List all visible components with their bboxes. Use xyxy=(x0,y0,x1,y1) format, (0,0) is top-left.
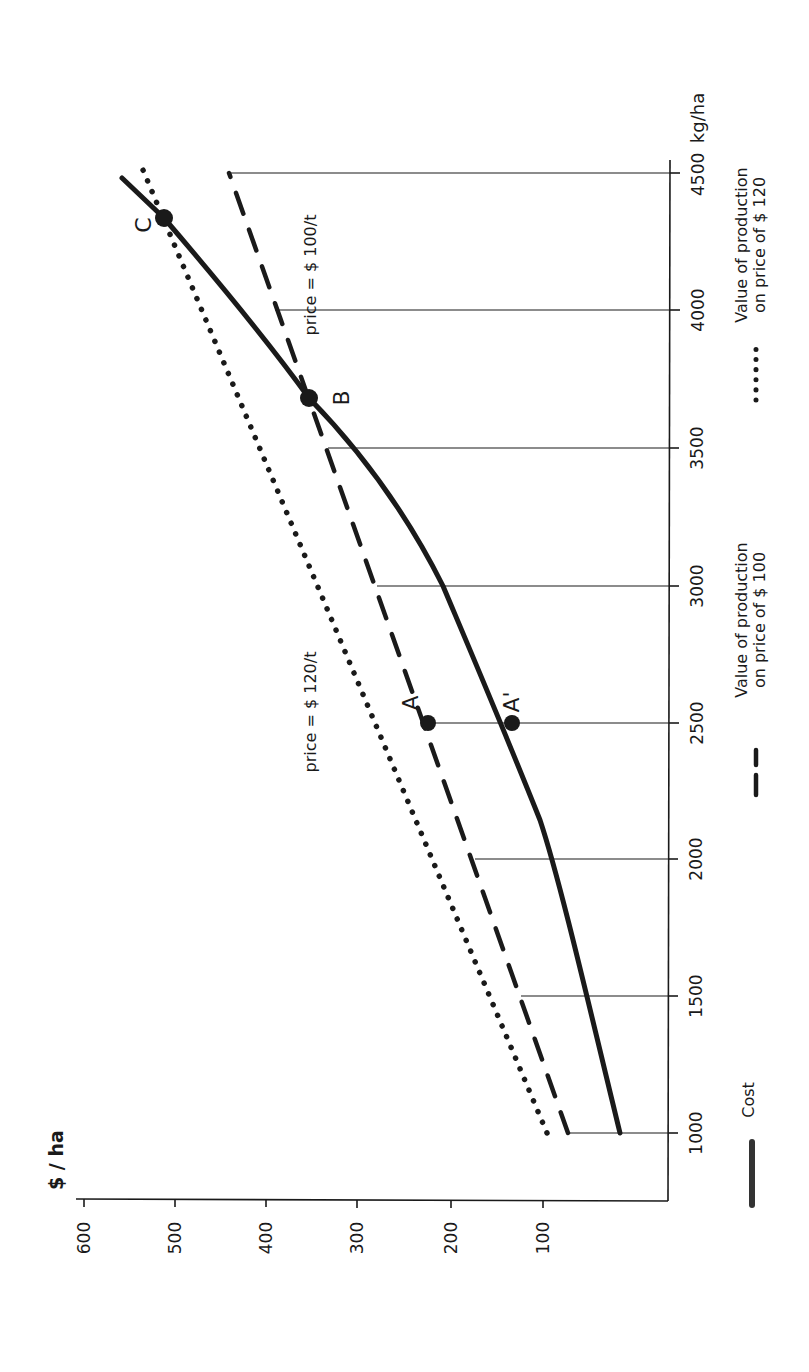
svg-text:300: 300 xyxy=(347,1222,367,1254)
point-b xyxy=(300,389,318,407)
legend-label-value-120-line2: on price of $ 120 xyxy=(750,177,769,313)
y-axis-line xyxy=(76,1199,668,1201)
series-cost xyxy=(122,178,620,1133)
svg-text:600: 600 xyxy=(74,1222,94,1254)
axes xyxy=(76,160,680,1208)
y-axis-title: $ / ha xyxy=(45,1130,67,1190)
point-b-label: B xyxy=(329,390,354,405)
svg-text:100: 100 xyxy=(533,1222,553,1254)
point-c-label: C xyxy=(131,217,156,232)
points xyxy=(155,209,520,731)
svg-text:200: 200 xyxy=(441,1222,461,1254)
series-value-100 xyxy=(229,173,568,1133)
svg-text:400: 400 xyxy=(256,1222,276,1254)
y-tick-labels: 600 500 400 300 200 100 xyxy=(74,1222,553,1254)
legend-label-value-100-line1: Value of production xyxy=(732,542,751,697)
svg-text:3500: 3500 xyxy=(687,426,707,469)
svg-text:3000: 3000 xyxy=(687,564,707,607)
point-a-label: A xyxy=(398,695,423,710)
svg-text:2500: 2500 xyxy=(687,701,707,744)
annotation-price-100: price = $ 100/t xyxy=(301,215,320,336)
svg-text:4500: 4500 xyxy=(688,153,708,196)
legend-label-value-120-line1: Value of production xyxy=(732,167,751,322)
svg-text:4000: 4000 xyxy=(688,288,708,331)
legend-label-value-100-line2: on price of $ 100 xyxy=(750,552,769,688)
point-a-prime-label: A' xyxy=(499,691,524,712)
svg-text:2000: 2000 xyxy=(686,837,706,880)
legend-label-cost: Cost xyxy=(739,1082,758,1118)
annotation-price-120: price = $ 120/t xyxy=(301,652,320,773)
legend: Cost Value of production on price of $ 1… xyxy=(732,167,769,1205)
x-tick-labels: 1000 1500 2000 2500 3000 3500 4000 4500 xyxy=(686,153,708,1155)
x-axis-title: kg/ha xyxy=(687,93,708,143)
point-a-prime xyxy=(504,715,520,731)
chart: A A' B C price = $ 120/t price = $ 100/t… xyxy=(0,0,809,1372)
x-axis-line xyxy=(668,160,670,1201)
svg-text:500: 500 xyxy=(165,1222,185,1254)
series-value-120 xyxy=(143,170,547,1133)
svg-text:1500: 1500 xyxy=(686,974,706,1017)
point-a xyxy=(420,715,436,731)
point-c xyxy=(155,209,173,227)
drop-lines xyxy=(229,173,670,1133)
svg-text:1000: 1000 xyxy=(686,1111,706,1154)
